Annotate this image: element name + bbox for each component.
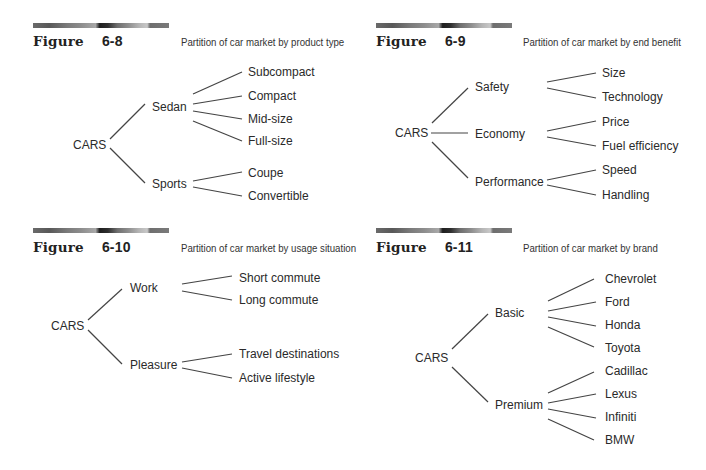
edge [193, 121, 242, 141]
edge [88, 330, 122, 364]
leaf-node: Price [602, 115, 630, 129]
leaf-node: Speed [602, 163, 637, 177]
edge [548, 409, 596, 418]
root-node: CARS [51, 319, 84, 333]
edge [110, 148, 145, 183]
edge [547, 121, 596, 131]
branch-node-safety: Safety [475, 80, 509, 94]
edge [547, 73, 596, 82]
edge [548, 327, 594, 347]
partition-tree-diagrams: CARS Sedan Subcompact Compact Mid-size F… [0, 0, 706, 470]
edge [193, 187, 242, 196]
leaf-node: Infiniti [605, 410, 636, 424]
edge [110, 104, 145, 139]
edge [452, 314, 488, 349]
edge [547, 137, 596, 146]
edge [193, 96, 242, 104]
edge [193, 172, 242, 181]
leaf-node: Handling [602, 188, 649, 202]
edge [193, 111, 242, 119]
leaf-node: Technology [602, 90, 663, 104]
edge [182, 354, 232, 362]
root-node: CARS [395, 126, 428, 140]
edge [452, 367, 488, 402]
edge [432, 142, 468, 178]
edge [548, 419, 594, 440]
edge [193, 72, 242, 94]
root-node: CARS [73, 138, 106, 152]
leaf-node: Compact [248, 89, 297, 103]
leaf-node: Coupe [248, 166, 284, 180]
edge [548, 317, 596, 326]
figure-6-11-tree: CARS Basic Chevrolet Ford Honda Toyota P… [415, 272, 657, 447]
edge [547, 170, 596, 180]
leaf-node: Cadillac [605, 364, 648, 378]
branch-node-sedan: Sedan [152, 100, 187, 114]
edge [88, 289, 122, 320]
edge [548, 394, 596, 403]
branch-node-work: Work [130, 281, 159, 295]
edge [547, 185, 596, 195]
branch-node-pleasure: Pleasure [130, 358, 178, 372]
leaf-node: Size [602, 66, 626, 80]
branch-node-premium: Premium [495, 398, 543, 412]
leaf-node: Ford [605, 295, 630, 309]
branch-node-sports: Sports [152, 177, 187, 191]
leaf-node: Honda [605, 318, 641, 332]
figure-6-8-tree: CARS Sedan Subcompact Compact Mid-size F… [73, 65, 315, 203]
edge [548, 279, 594, 301]
edge [182, 368, 232, 378]
leaf-node: Full-size [248, 134, 293, 148]
leaf-node: Subcompact [248, 65, 315, 79]
branch-node-economy: Economy [475, 127, 525, 141]
edge [182, 276, 232, 284]
leaf-node: Travel destinations [239, 347, 339, 361]
leaf-node: Active lifestyle [239, 371, 315, 385]
figure-6-9-tree: CARS Safety Size Technology Economy Pric… [395, 66, 678, 202]
edge [548, 302, 596, 311]
root-node: CARS [415, 351, 448, 365]
leaf-node: Short commute [239, 271, 321, 285]
edge [432, 88, 468, 123]
leaf-node: Mid-size [248, 112, 293, 126]
leaf-node: Toyota [605, 341, 641, 355]
leaf-node: BMW [605, 433, 635, 447]
edge [182, 291, 232, 300]
leaf-node: Long commute [239, 293, 319, 307]
edge [547, 88, 596, 98]
leaf-node: Chevrolet [605, 272, 657, 286]
leaf-node: Lexus [605, 387, 637, 401]
leaf-node: Convertible [248, 189, 309, 203]
edge [548, 372, 594, 393]
branch-node-basic: Basic [495, 306, 524, 320]
leaf-node: Fuel efficiency [602, 139, 678, 153]
figure-6-10-tree: CARS Work Short commute Long commute Ple… [51, 271, 339, 385]
branch-node-performance: Performance [475, 175, 544, 189]
